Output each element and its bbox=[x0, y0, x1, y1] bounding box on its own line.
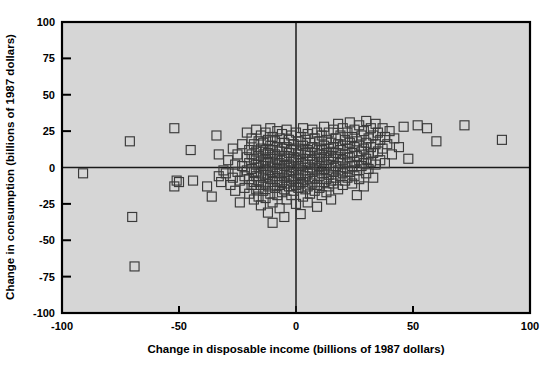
chart-canvas: -100-50050100-100-75-50-250255075100 Cha… bbox=[0, 0, 549, 368]
y-tick-label--75: -75 bbox=[39, 271, 55, 283]
y-tick-label-0: 0 bbox=[49, 162, 55, 174]
y-tick-label-25: 25 bbox=[43, 125, 55, 137]
x-tick-label-0: 0 bbox=[293, 320, 299, 332]
scatter-plot-figure: -100-50050100-100-75-50-250255075100 Cha… bbox=[0, 0, 549, 368]
y-tick-label-100: 100 bbox=[37, 16, 55, 28]
y-tick-label--50: -50 bbox=[39, 234, 55, 246]
y-tick-label--25: -25 bbox=[39, 198, 55, 210]
x-tick-label--50: -50 bbox=[171, 320, 187, 332]
y-tick-label--100: -100 bbox=[33, 307, 55, 319]
y-tick-label-75: 75 bbox=[43, 52, 55, 64]
y-axis-title: Change in consumption (billions of 1987 … bbox=[4, 34, 16, 300]
x-tick-label--100: -100 bbox=[51, 320, 73, 332]
x-tick-label-50: 50 bbox=[407, 320, 419, 332]
x-axis-title: Change in disposable income (billions of… bbox=[147, 343, 444, 355]
x-tick-label-100: 100 bbox=[521, 320, 539, 332]
y-tick-label-50: 50 bbox=[43, 89, 55, 101]
